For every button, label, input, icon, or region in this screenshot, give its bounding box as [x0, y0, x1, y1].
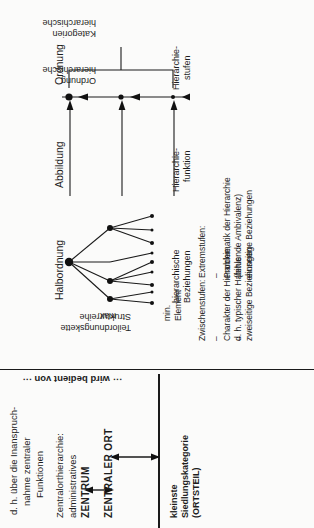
- zentraler-ort-diagram: [0, 0, 314, 528]
- label-zentrum: ZENTRUM: [81, 466, 92, 518]
- note-line-2: nahme zentraler: [22, 437, 32, 506]
- label-ortsteil: (ORTSTEIL): [192, 468, 202, 519]
- note-line-1: d. h. über die Inanspruch-: [9, 407, 19, 515]
- label-siedlungskategorie: Siedlungskategorie: [181, 435, 191, 518]
- label-administratives: administratives: [68, 455, 78, 518]
- bottom-header-wird-bedient-von: ··· wird bedient von ···: [22, 374, 122, 384]
- label-zentralorthierarchie: Zentralorthierarchie:: [55, 433, 65, 518]
- note-line-3: Funktionen: [35, 451, 45, 498]
- label-zentraler-ort: ZENTRALER ORT: [104, 428, 115, 518]
- label-kleinste: kleinste: [170, 484, 180, 518]
- scanned-figure-sheet: Halbordnung Abbildung Ordnung: [0, 0, 314, 528]
